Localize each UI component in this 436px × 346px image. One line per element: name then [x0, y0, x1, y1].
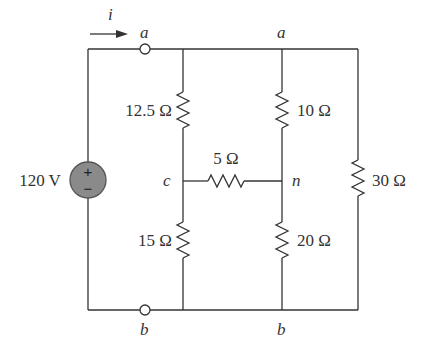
node-n-label: n	[292, 171, 301, 190]
resistor-10	[276, 92, 288, 128]
resistor-15-label: 15 Ω	[138, 231, 172, 250]
resistor-5	[208, 175, 244, 187]
resistor-12-5-label: 12.5 Ω	[125, 101, 172, 120]
terminal-b	[140, 305, 150, 315]
node-a-terminal-label: a	[140, 23, 149, 42]
resistor-30-label: 30 Ω	[372, 171, 406, 190]
node-a-top-label: a	[277, 23, 286, 42]
resistor-30	[352, 160, 364, 196]
current-arrow-icon	[116, 30, 128, 38]
source-voltage-label: 120 V	[19, 171, 61, 190]
terminal-a	[140, 44, 150, 54]
source-minus: −	[84, 180, 93, 197]
circuit-diagram: + − i a a b b c n 120 V 12.5 Ω 10 Ω 5 Ω …	[0, 0, 436, 346]
resistor-12-5	[177, 92, 189, 128]
resistor-20-label: 20 Ω	[297, 231, 331, 250]
node-b-terminal-label: b	[140, 320, 149, 339]
resistor-20	[276, 222, 288, 258]
current-label: i	[108, 5, 113, 24]
node-b-bottom-label: b	[277, 320, 286, 339]
resistor-15	[177, 222, 189, 258]
resistor-5-label: 5 Ω	[213, 149, 238, 168]
resistor-10-label: 10 Ω	[297, 101, 331, 120]
node-c-label: c	[163, 171, 171, 190]
source-plus: +	[84, 163, 93, 180]
